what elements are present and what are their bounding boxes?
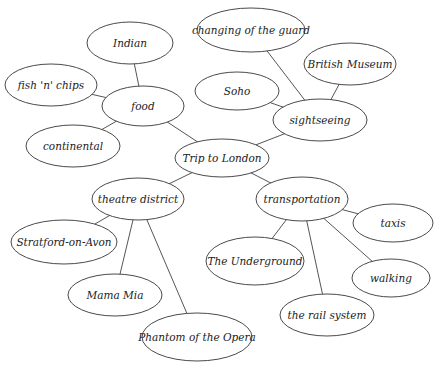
node-transport: transportation: [256, 177, 348, 221]
node-phantom: Phantom of the Opera: [137, 313, 256, 361]
node-label: changing of the guard: [192, 24, 310, 36]
node-label: fish 'n' chips: [17, 79, 85, 91]
node-label: the rail system: [288, 309, 367, 321]
node-mamamia: Mama Mia: [68, 274, 162, 316]
node-label: theatre district: [98, 193, 179, 205]
node-label: continental: [43, 140, 103, 152]
node-sightseeing: sightseeing: [273, 99, 367, 141]
node-food: food: [102, 86, 184, 126]
node-taxis: taxis: [353, 204, 433, 242]
node-label: walking: [370, 272, 412, 284]
node-label: Stratford-on-Avon: [16, 236, 111, 248]
node-underground: The Underground: [206, 237, 304, 285]
node-label: sightseeing: [289, 114, 350, 126]
node-label: Phantom of the Opera: [137, 331, 256, 343]
node-label: Mama Mia: [86, 289, 144, 301]
node-label: Trip to London: [182, 152, 261, 164]
node-label: British Museum: [307, 58, 393, 70]
node-label: taxis: [380, 217, 406, 229]
node-label: Soho: [224, 85, 251, 97]
node-theatre: theatre district: [92, 178, 184, 220]
node-label: The Underground: [207, 255, 302, 267]
mind-map-canvas: Trip to LondonfoodIndianfish 'n' chipsco…: [0, 0, 439, 366]
node-museum: British Museum: [304, 43, 396, 85]
node-fish: fish 'n' chips: [5, 64, 97, 106]
node-root: Trip to London: [175, 139, 269, 177]
node-label: transportation: [264, 193, 341, 205]
node-stratford: Stratford-on-Avon: [11, 220, 117, 264]
nodes-layer: Trip to LondonfoodIndianfish 'n' chipsco…: [5, 8, 433, 361]
node-label: food: [130, 100, 155, 112]
node-walking: walking: [352, 259, 430, 297]
node-continental: continental: [26, 125, 120, 167]
node-soho: Soho: [195, 72, 279, 110]
node-label: Indian: [112, 37, 147, 49]
node-guard: changing of the guard: [192, 8, 310, 52]
node-rail: the rail system: [280, 294, 374, 336]
node-indian: Indian: [87, 22, 173, 64]
